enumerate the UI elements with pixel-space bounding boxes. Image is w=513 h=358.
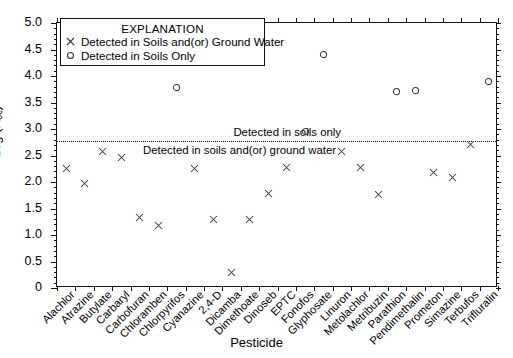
y-axis-minor-tick [54,224,58,225]
y-axis-minor-tick-right [496,55,499,56]
y-axis-minor-tick-right [496,140,499,141]
y-axis-minor-tick [54,246,58,247]
y-axis-minor-tick [54,171,58,172]
y-axis-minor-tick-right [496,44,499,45]
y-axis-tick [51,209,57,210]
y-axis-minor-tick-right [496,34,499,35]
y-axis-minor-tick [54,277,58,278]
y-axis-minor-tick [54,87,58,88]
y-axis-tick-right [496,50,501,51]
y-axis-minor-tick [54,71,58,72]
data-point-x-marker [448,173,457,182]
x-axis-tick-top [369,18,370,23]
y-axis-tick [51,50,57,51]
data-point-x-marker [209,215,218,224]
y-axis-minor-tick-right [496,230,499,231]
y-axis-tick [51,182,57,183]
data-point-x-marker [80,179,89,188]
threshold-label-above: Detected in soils only [233,127,341,138]
x-axis-tick-top [296,18,297,23]
threshold-label-below: Detected in soils and(or) ground water [143,145,336,156]
y-axis-minor-tick [54,193,58,194]
y-axis-tick-right [496,23,501,24]
data-point-circle-marker [392,87,401,96]
y-axis-minor-tick [54,177,58,178]
y-axis-minor-tick-right [496,272,499,273]
y-axis-minor-tick-right [496,150,499,151]
x-axis-tick-top [333,18,334,23]
y-axis-minor-tick-right [496,246,499,247]
threshold-line [57,141,496,142]
data-point-x-marker [227,268,236,277]
y-axis-minor-tick [54,113,58,114]
y-axis-minor-tick [54,145,58,146]
y-axis-minor-tick-right [496,97,499,98]
y-axis-minor-tick [54,230,58,231]
y-axis-minor-tick-right [496,277,499,278]
data-point-x-marker [245,215,254,224]
y-axis-tick-label: 2.0 [25,175,42,188]
y-axis-minor-tick [54,283,58,284]
data-point-circle-marker [484,77,493,86]
y-axis-minor-tick-right [496,65,499,66]
y-axis-tick-label: 5.0 [25,16,42,29]
y-axis-minor-tick-right [496,224,499,225]
x-axis-title: Pesticide [0,335,513,350]
data-point-x-marker [154,221,163,230]
legend-entry-label: Detected in Soils Only [81,49,195,63]
x-marker-icon [65,36,76,47]
y-axis-tick [51,76,57,77]
legend-entry-label: Detected in Soils and(or) Ground Water [81,35,284,49]
y-axis-minor-tick [54,240,58,241]
y-axis-tick-label: 3.5 [25,96,42,109]
legend-entry-soils-and-ground-water: Detected in Soils and(or) Ground Water [65,35,260,49]
x-axis-tick-top [498,18,499,23]
y-axis-tick [51,23,57,24]
y-axis-minor-tick-right [496,219,499,220]
y-axis-minor-tick-right [496,60,499,61]
y-axis-minor-tick-right [496,251,499,252]
y-axis-minor-tick-right [496,177,499,178]
y-axis-minor-tick-right [496,81,499,82]
y-axis-minor-tick [54,203,58,204]
y-axis-minor-tick [54,60,58,61]
y-axis-tick-right [496,76,501,77]
y-axis-tick [51,156,57,157]
y-axis-tick-label: 1.0 [25,228,42,241]
y-axis-minor-tick [54,65,58,66]
y-axis-minor-tick-right [496,92,499,93]
x-axis-tick-top [443,18,444,23]
y-axis-tick-right [496,129,501,130]
y-axis-tick-right [496,209,501,210]
data-point-x-marker [356,163,365,172]
x-axis-tick-top [351,18,352,23]
y-axis-minor-tick-right [496,214,499,215]
y-axis-tick-label: 3.0 [25,122,42,135]
x-axis-tick-top [406,18,407,23]
y-axis-tick [51,235,57,236]
data-point-x-marker [466,140,475,149]
y-axis-minor-tick [54,97,58,98]
y-axis-minor-tick [54,272,58,273]
y-axis-tick-right [496,182,501,183]
y-axis-minor-tick-right [496,187,499,188]
y-axis-minor-tick-right [496,161,499,162]
y-axis-tick-label: 2.5 [25,149,42,162]
data-point-circle-marker [411,86,420,95]
x-axis-tick-top [480,18,481,23]
y-axis-tick [51,103,57,104]
y-axis-tick-label: 4.0 [25,69,42,82]
y-axis-minor-tick-right [496,87,499,88]
y-axis-minor-tick [54,108,58,109]
y-axis-minor-tick-right [496,240,499,241]
y-axis-minor-tick-right [496,71,499,72]
data-point-x-marker [282,163,291,172]
data-point-circle-marker [172,83,181,92]
x-axis-tick-top [425,18,426,23]
x-axis-tick-top [278,18,279,23]
y-axis-tick-label: 4.5 [25,43,42,56]
y-axis-tick-right [496,235,501,236]
y-axis-minor-tick-right [496,203,499,204]
data-point-x-marker [117,153,126,162]
y-axis-minor-tick-right [496,283,499,284]
